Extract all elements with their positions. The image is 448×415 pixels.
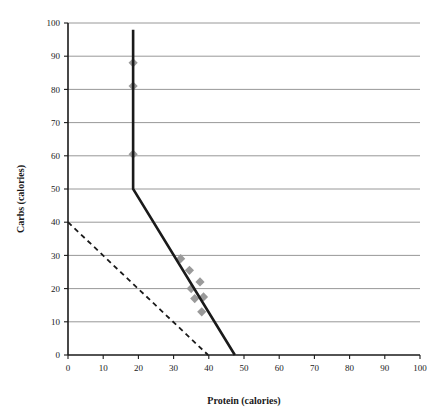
y-tick-label-90: 90 [51,51,61,61]
y-tick-label-50: 50 [51,184,61,194]
x-tick-label-10: 10 [99,363,109,373]
y-tick-label-0: 0 [56,350,61,360]
scatter-plot-figure: 0102030405060708090100 01020304050607080… [0,0,448,415]
y-axis-title: Carbs (calories) [15,165,27,233]
x-tick-label-70: 70 [310,363,320,373]
y-tick-label-40: 40 [51,217,61,227]
x-tick-label-60: 60 [275,363,285,373]
x-tick-label-50: 50 [240,363,250,373]
x-tick-label-30: 30 [169,363,179,373]
y-tick-label-80: 80 [51,85,61,95]
chart-container: 0102030405060708090100 01020304050607080… [0,0,448,415]
x-axis-title: Protein (calories) [207,395,280,407]
y-tick-label-10: 10 [51,317,61,327]
x-tick-label-0: 0 [66,363,71,373]
x-tick-label-20: 20 [134,363,144,373]
x-tick-label-100: 100 [413,363,427,373]
y-tick-label-30: 30 [51,251,61,261]
x-tick-label-90: 90 [380,363,390,373]
x-tick-label-80: 80 [345,363,355,373]
y-tick-label-60: 60 [51,151,61,161]
y-tick-label-70: 70 [51,118,61,128]
x-tick-label-40: 40 [204,363,214,373]
y-tick-label-100: 100 [47,18,61,28]
y-tick-label-20: 20 [51,284,61,294]
